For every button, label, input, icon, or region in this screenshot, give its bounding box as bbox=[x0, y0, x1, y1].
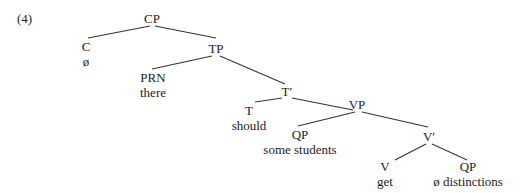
node-VP: VP bbox=[349, 98, 366, 111]
word-QP1: some students bbox=[263, 143, 336, 156]
node-TP: TP bbox=[208, 42, 223, 55]
node-QP1: QP bbox=[292, 128, 309, 141]
node-Tbar: T′ bbox=[282, 85, 293, 98]
word-V: get bbox=[377, 175, 393, 188]
node-V: V bbox=[380, 160, 389, 173]
word-QP2: ø distinctions bbox=[433, 175, 503, 188]
word-PRN: there bbox=[140, 86, 166, 99]
node-CP: CP bbox=[144, 12, 160, 25]
tree-branches bbox=[0, 0, 521, 193]
node-Vbar: V′ bbox=[423, 130, 435, 143]
node-QP2: QP bbox=[460, 160, 477, 173]
node-T: T bbox=[245, 104, 253, 117]
node-PRN: PRN bbox=[140, 71, 165, 84]
word-C: ø bbox=[83, 55, 90, 68]
node-C: C bbox=[82, 40, 91, 53]
word-T: should bbox=[232, 119, 267, 132]
